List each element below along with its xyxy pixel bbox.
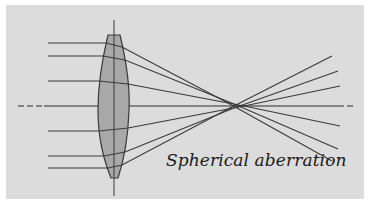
- figure-caption: Spherical aberration: [166, 150, 347, 170]
- spherical-aberration-figure: Spherical aberration: [0, 0, 371, 215]
- optics-diagram: [0, 0, 371, 215]
